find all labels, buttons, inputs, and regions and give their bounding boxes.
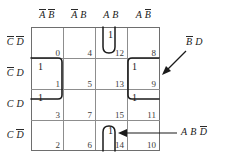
kmap-cell-12[interactable]: 1 12 <box>95 27 127 58</box>
kmap-cell-11-value: 1 <box>132 92 137 103</box>
kmap-cell-9-value: 1 <box>132 61 137 72</box>
grid-line-h-4 <box>31 150 160 151</box>
kmap-cell-8-index: 8 <box>152 48 157 58</box>
kmap-cell-4-index: 4 <box>88 48 93 58</box>
column-header-a-b-bar: A B <box>127 9 160 24</box>
annot-bd-arrow <box>162 51 186 75</box>
kmap-cell-7[interactable]: 7 <box>63 89 95 120</box>
row-header-cd: C D <box>1 98 30 112</box>
kmap-cell-15-index: 15 <box>115 110 124 120</box>
kmap-cell-2-index: 2 <box>56 140 61 150</box>
kmap-cell-14-value: 1 <box>108 125 113 136</box>
kmap-cell-4[interactable]: 4 <box>63 27 95 58</box>
kmap-cell-9[interactable]: 1 9 <box>127 58 159 89</box>
row-header-2-text: C D <box>7 98 24 109</box>
kmap-cell-7-index: 7 <box>88 110 93 120</box>
kmap-cell-8[interactable]: 8 <box>127 27 159 58</box>
kmap-cell-11-index: 11 <box>147 110 156 120</box>
column-header-3-text: A B <box>136 9 152 20</box>
kmap-cell-10-index: 10 <box>147 140 156 150</box>
kmap-cell-9-index: 9 <box>152 79 157 89</box>
kmap-cell-10[interactable]: 10 <box>127 120 159 150</box>
annotation-a-b-d-bar: A B D <box>181 126 207 138</box>
kmap-cell-5[interactable]: 5 <box>63 58 95 89</box>
kmap-cell-6-index: 6 <box>88 140 93 150</box>
annotation-b-bar-d: B D <box>186 36 203 48</box>
kmap-cell-11[interactable]: 1 11 <box>127 89 159 120</box>
row-header-c-d-bar: C D <box>1 129 30 143</box>
kmap-cell-1[interactable]: 1 1 <box>31 58 63 89</box>
annotation-b-bar-d-text: B D <box>186 36 203 47</box>
column-header-1-text: A B <box>71 9 87 20</box>
row-header-3-text: C D <box>7 129 24 140</box>
row-header-c-bar-d-bar: C D <box>1 36 30 50</box>
kmap-cell-3-value: 1 <box>38 92 43 103</box>
karnaugh-map-figure: A B A B A B A B C D C D C D C D <box>0 0 227 160</box>
kmap-cell-12-value: 1 <box>108 29 113 40</box>
kmap-cell-2[interactable]: 2 <box>31 120 63 150</box>
column-header-2-text: A B <box>103 9 119 20</box>
row-header-0-text: C D <box>7 36 24 47</box>
kmap-cell-1-value: 1 <box>38 61 43 72</box>
column-header-0-text: A B <box>39 9 55 20</box>
kmap-cell-3[interactable]: 1 3 <box>31 89 63 120</box>
kmap-cell-0[interactable]: 0 <box>31 27 63 58</box>
kmap-cell-13-index: 13 <box>115 79 124 89</box>
kmap-cell-3-index: 3 <box>56 110 61 120</box>
kmap-grid: 0 4 1 12 8 1 1 5 13 1 9 <box>31 27 160 151</box>
column-header-ab: A B <box>95 9 127 24</box>
kmap-cell-1-index: 1 <box>56 79 61 89</box>
column-header-a-bar-b: A B <box>63 9 95 24</box>
kmap-cell-6[interactable]: 6 <box>63 120 95 150</box>
row-header-c-bar-d: C D <box>1 67 30 81</box>
kmap-cell-13[interactable]: 13 <box>95 58 127 89</box>
annotation-a-b-d-bar-text: A B D <box>181 126 207 137</box>
kmap-cell-14-index: 14 <box>115 140 124 150</box>
row-header-1-text: C D <box>7 67 24 78</box>
kmap-cell-12-index: 12 <box>115 48 124 58</box>
column-header-ab-bar-bar: A B <box>31 9 63 24</box>
kmap-cell-0-index: 0 <box>56 48 61 58</box>
kmap-cell-15[interactable]: 15 <box>95 89 127 120</box>
kmap-cell-14[interactable]: 1 14 <box>95 120 127 150</box>
kmap-cell-5-index: 5 <box>88 79 93 89</box>
